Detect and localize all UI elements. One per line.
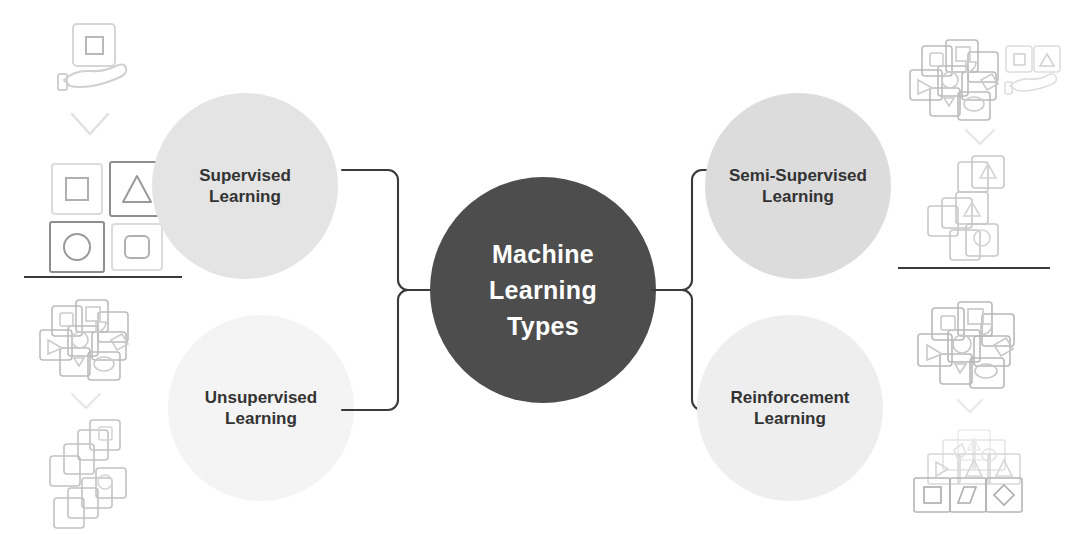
node-supervised[interactable]: Supervised Learning (152, 93, 338, 279)
node-machine-learning-types[interactable]: Machine Learning Types (430, 177, 656, 403)
labeled-card-on-hand-icon (58, 24, 126, 90)
semi-supervised-illustration (900, 20, 1065, 260)
node-supervised-label: Supervised Learning (199, 165, 291, 208)
clustered-card-groups-icon (50, 420, 126, 528)
connector-left-bracket (340, 160, 440, 420)
node-unsupervised[interactable]: Unsupervised Learning (168, 315, 354, 501)
unsupervised-illustration (18, 296, 188, 521)
node-center-label: Machine Learning Types (489, 236, 597, 345)
unlabeled-card-cluster-icon (40, 300, 128, 380)
reinforcement-illustration (900, 288, 1065, 520)
diagram-canvas: Supervised Learning Unsupervised Learnin… (0, 0, 1069, 534)
labeled-card-pair-on-hand-icon (1005, 46, 1060, 94)
labeled-shape-grid-2x2-icon (50, 162, 164, 272)
unlabeled-card-cluster-icon (918, 302, 1014, 388)
chevron-down-icon (966, 130, 994, 144)
clustered-card-groups-icon (928, 156, 1004, 260)
node-unsupervised-label: Unsupervised Learning (205, 387, 317, 430)
unlabeled-card-cluster-icon (910, 40, 998, 120)
node-reinforcement-label: Reinforcement Learning (730, 387, 849, 430)
chevron-down-icon (72, 114, 108, 134)
node-semi-supervised-label: Semi-Supervised Learning (729, 165, 867, 208)
chevron-down-icon (958, 400, 982, 412)
divider-right (898, 267, 1050, 269)
node-reinforcement[interactable]: Reinforcement Learning (697, 315, 883, 501)
divider-left (24, 276, 182, 278)
stacked-tile-pyramid-icon (914, 430, 1022, 512)
chevron-down-icon (72, 394, 100, 408)
node-semi-supervised[interactable]: Semi-Supervised Learning (705, 93, 891, 279)
